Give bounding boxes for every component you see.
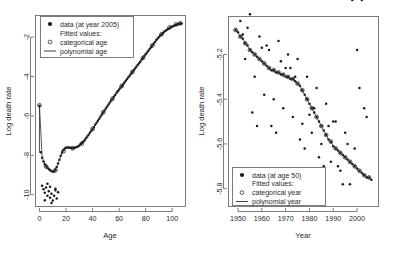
figure-container: -2-4-6-8-10 020406080100 Log death rate …: [0, 0, 394, 261]
left-legend-data-label: data (at year 2005): [60, 21, 119, 29]
data-point: [365, 116, 368, 119]
data-point: [306, 76, 309, 79]
data-point: [346, 143, 349, 146]
data-point: [46, 183, 49, 186]
data-point: [356, 49, 359, 52]
left-legend-fitted-header: Fitted values:: [60, 30, 102, 37]
data-point: [52, 199, 55, 202]
data-point: [49, 186, 52, 189]
svg-text:-5.4: -5.4: [215, 93, 224, 105]
data-point: [303, 147, 306, 150]
data-point: [244, 58, 247, 61]
data-point: [261, 47, 264, 50]
data-point: [246, 26, 249, 29]
svg-text:2000: 2000: [349, 214, 365, 223]
left-legend-polynomial-label: polynomial age: [60, 48, 107, 56]
two-panel-mortality-figure: -2-4-6-8-10 020406080100 Log death rate …: [0, 0, 394, 261]
left-legend-data-marker: [48, 22, 52, 26]
left-legend: data (at year 2005) Fitted values: categ…: [41, 17, 134, 58]
data-point: [296, 58, 299, 61]
left-x-axis: 020406080100: [37, 208, 178, 223]
data-point: [249, 13, 252, 16]
data-point: [339, 169, 342, 172]
data-point: [325, 102, 328, 105]
data-point: [251, 111, 254, 114]
data-point: [344, 131, 347, 134]
data-point: [353, 147, 356, 150]
svg-text:-6: -6: [22, 113, 31, 119]
data-point: [42, 188, 45, 191]
right-plot-points: [234, 0, 373, 185]
data-point: [308, 114, 311, 117]
data-point: [287, 53, 290, 56]
data-point: [289, 67, 292, 70]
data-point: [268, 49, 271, 52]
right-legend-polynomial-label: polynomial year: [252, 198, 302, 206]
data-point: [50, 202, 53, 205]
right-y-axis: -5.2-5.4-5.6-5.8: [215, 48, 227, 195]
data-point: [361, 0, 364, 1]
data-point: [275, 131, 278, 134]
data-point: [320, 143, 323, 146]
right-legend-data-label: data (at age 50): [252, 172, 301, 180]
svg-text:-4: -4: [22, 73, 31, 79]
right-legend-data-marker: [240, 173, 244, 177]
data-point: [349, 183, 352, 186]
data-point: [57, 191, 60, 194]
data-point: [327, 125, 330, 128]
right-legend-categorical-label: categorical year: [252, 189, 302, 197]
data-point: [334, 120, 337, 123]
right-legend-fitted-header: Fitted values:: [252, 180, 294, 187]
data-point: [50, 192, 53, 195]
data-point: [46, 194, 49, 197]
svg-text:1980: 1980: [301, 214, 317, 223]
data-point: [239, 20, 242, 23]
data-point: [41, 185, 44, 188]
data-point: [265, 44, 268, 47]
svg-text:-8: -8: [22, 152, 31, 158]
data-point: [332, 120, 335, 123]
fitted-polynomial-curve: [236, 30, 372, 180]
data-point: [358, 87, 361, 90]
data-point: [54, 188, 57, 191]
svg-text:40: 40: [89, 214, 97, 223]
data-point: [53, 194, 56, 197]
data-point: [55, 197, 58, 200]
data-point: [282, 107, 285, 110]
data-point: [272, 98, 275, 101]
svg-text:-5.6: -5.6: [215, 138, 224, 150]
svg-text:80: 80: [142, 214, 150, 223]
svg-text:100: 100: [166, 214, 178, 223]
right-x-axis-title: Year: [295, 231, 311, 240]
data-point: [299, 138, 302, 141]
svg-text:-2: -2: [22, 34, 31, 40]
data-point: [342, 183, 345, 186]
left-x-axis-title: Age: [103, 231, 117, 240]
data-point: [311, 131, 314, 134]
data-point: [315, 87, 318, 90]
data-point: [351, 0, 354, 1]
left-y-axis-title: Log death rate: [4, 87, 13, 136]
data-point: [258, 35, 261, 38]
data-point: [49, 196, 52, 199]
svg-text:1960: 1960: [254, 214, 270, 223]
data-point: [44, 191, 47, 194]
data-point: [363, 107, 366, 110]
data-point: [337, 165, 340, 168]
svg-text:-5.2: -5.2: [215, 48, 224, 60]
data-point: [277, 40, 280, 43]
left-legend-categorical-label: categorical age: [60, 39, 108, 47]
data-point: [330, 161, 333, 164]
svg-text:0: 0: [37, 214, 41, 223]
data-point: [253, 76, 256, 79]
data-point: [284, 67, 287, 70]
data-point: [44, 199, 47, 202]
data-point: [48, 190, 51, 193]
svg-text:60: 60: [115, 214, 123, 223]
svg-text:-10: -10: [22, 189, 31, 199]
right-x-axis: 195019601970198019902000: [230, 208, 365, 223]
svg-text:1990: 1990: [325, 214, 341, 223]
svg-text:1950: 1950: [230, 214, 246, 223]
data-point: [292, 116, 295, 119]
data-point: [318, 156, 321, 159]
